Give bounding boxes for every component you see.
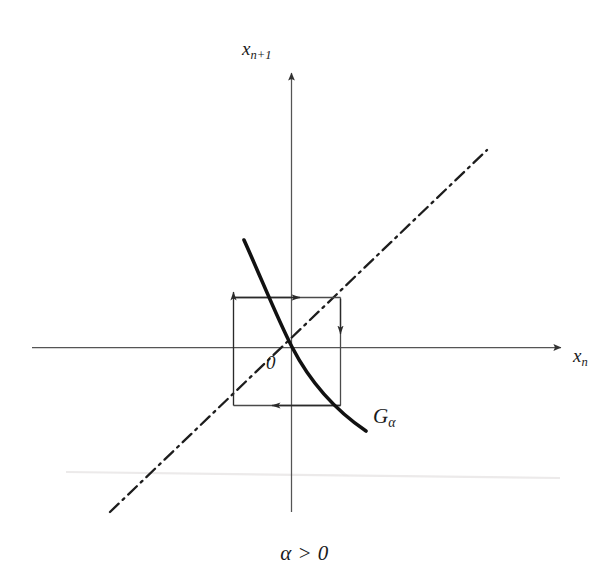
axes-group — [32, 73, 561, 512]
cobweb-group — [234, 292, 341, 406]
curve-label-base: G — [373, 404, 388, 428]
curve-label-subscript: α — [388, 415, 395, 430]
y-axis-label: xn+1 — [242, 38, 271, 60]
x-axis-label-subscript: n — [581, 355, 587, 369]
origin-label: 0 — [266, 352, 276, 374]
x-axis-label: xn — [573, 345, 588, 367]
cobweb-diagram-svg — [0, 0, 609, 585]
y-axis-label-subscript: n+1 — [250, 48, 271, 62]
figure-canvas: xn+1 xn Gα 0 α > 0 — [0, 0, 609, 585]
curve-label: Gα — [373, 404, 395, 429]
curve-g-alpha — [244, 240, 366, 431]
identity-line — [110, 150, 487, 512]
scan-artifact-line — [66, 472, 560, 478]
figure-caption: α > 0 — [0, 541, 609, 566]
